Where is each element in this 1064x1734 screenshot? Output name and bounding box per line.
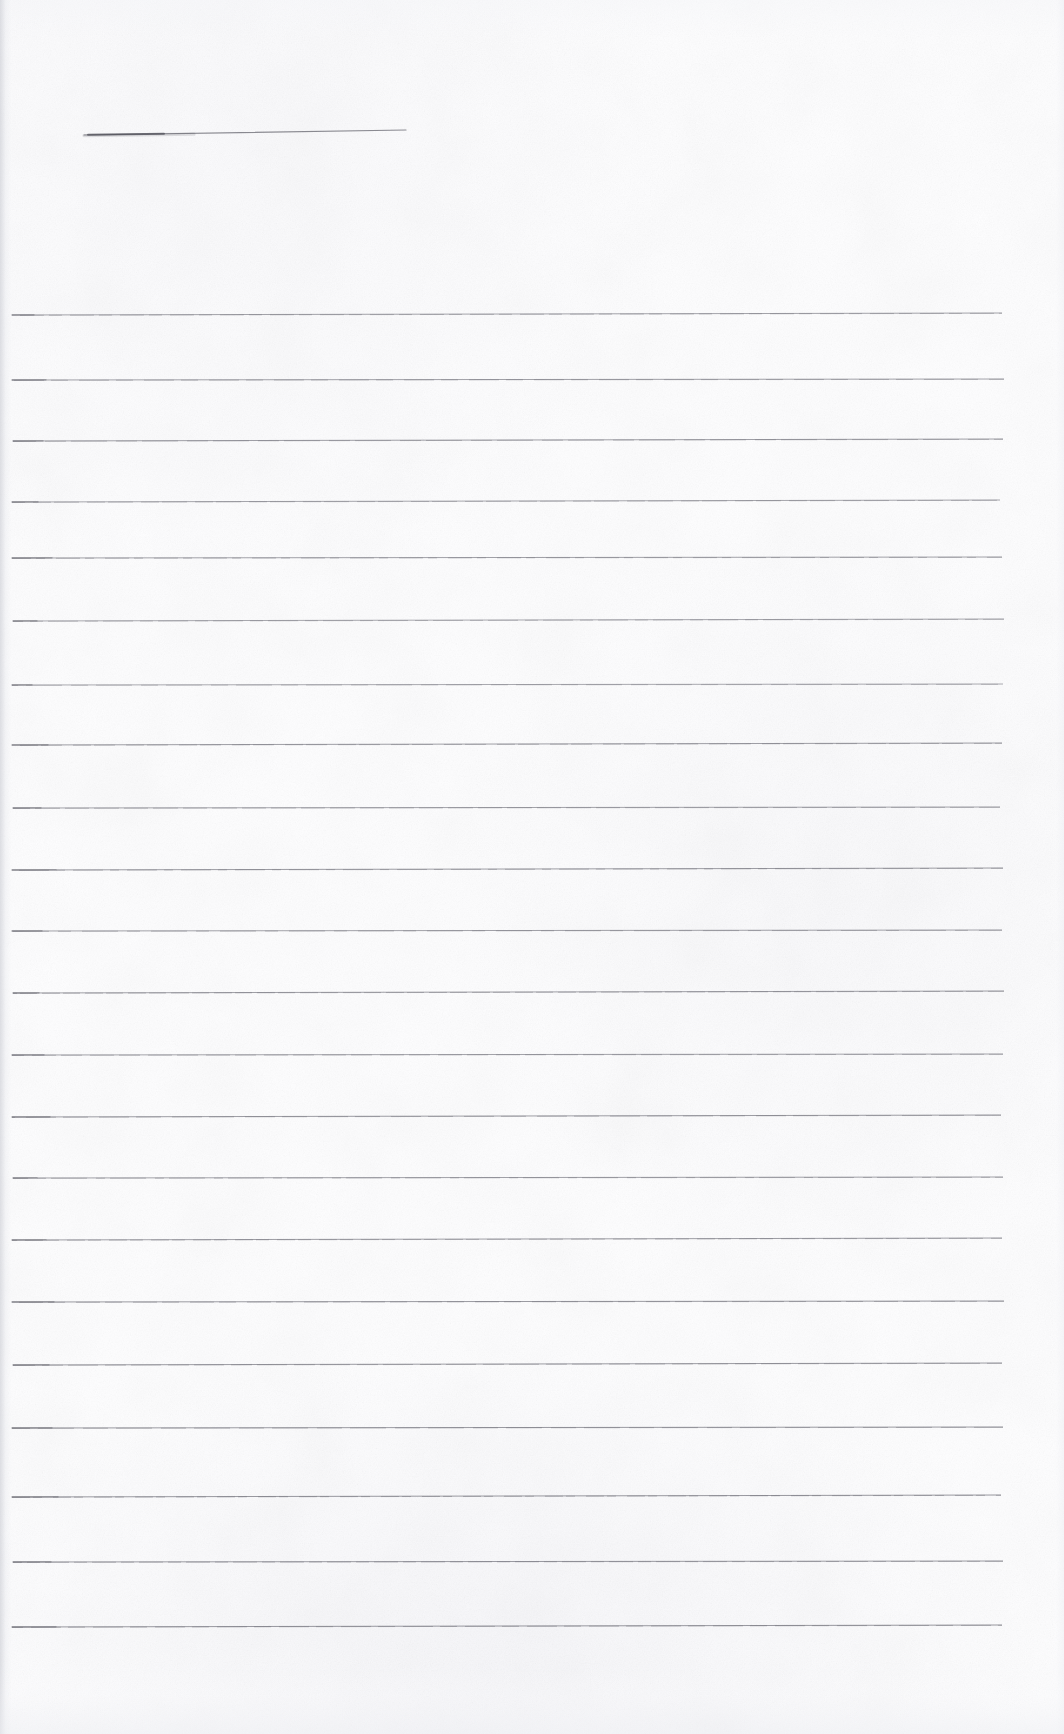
scanned-page: Blank ruled notebook page (scan)	[0, 0, 1064, 1734]
paper-background	[0, 0, 1064, 1734]
